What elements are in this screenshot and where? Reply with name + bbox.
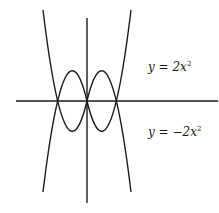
- label-lower-text: y = −2x: [148, 125, 197, 139]
- label-upper-curve: y = 2x2: [148, 60, 191, 74]
- label-lower-exponent: 2: [197, 125, 201, 133]
- label-upper-exponent: 2: [187, 60, 191, 68]
- label-lower-curve: y = −2x2: [148, 125, 201, 139]
- label-upper-text: y = 2x: [148, 60, 187, 74]
- graph-canvas: [0, 0, 219, 213]
